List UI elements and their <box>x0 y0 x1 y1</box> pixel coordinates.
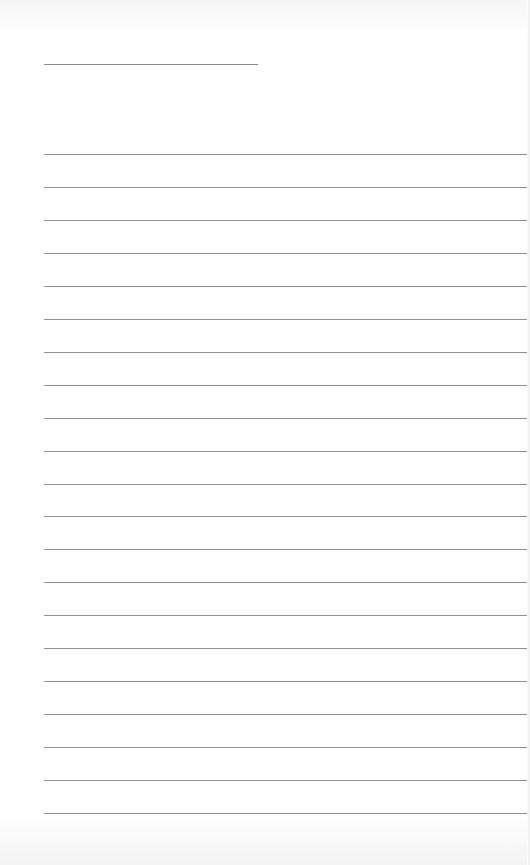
ruled-line <box>44 582 528 583</box>
ruled-line <box>44 187 528 188</box>
ruled-line <box>44 714 528 715</box>
ruled-line <box>44 418 528 419</box>
ruled-line <box>44 352 528 353</box>
ruled-line <box>44 484 528 485</box>
ruled-line <box>44 549 528 550</box>
ruled-line <box>44 648 528 649</box>
ruled-line <box>44 319 528 320</box>
ruled-line <box>44 154 528 155</box>
ruled-line <box>44 615 528 616</box>
ruled-line <box>44 253 528 254</box>
lined-page <box>0 0 530 865</box>
title-underline <box>44 64 258 65</box>
ruled-line <box>44 286 528 287</box>
ruled-line <box>44 747 528 748</box>
ruled-line <box>44 385 528 386</box>
ruled-line <box>44 813 528 814</box>
ruled-line <box>44 516 528 517</box>
ruled-line <box>44 220 528 221</box>
ruled-line <box>44 451 528 452</box>
ruled-line <box>44 681 528 682</box>
ruled-line <box>44 780 528 781</box>
